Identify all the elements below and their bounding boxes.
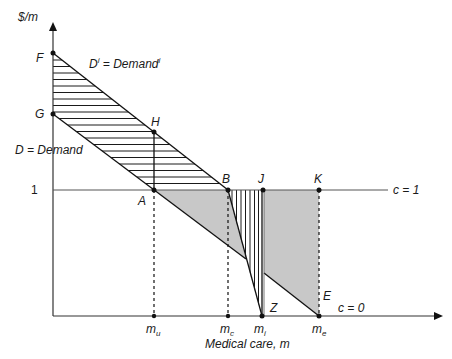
tick-mu: [152, 314, 156, 318]
point-e: [317, 314, 322, 319]
label-z: Z: [269, 301, 278, 315]
demand-curve: [53, 114, 246, 259]
tick-label-mc: mc: [220, 322, 234, 338]
tick-label-me: me: [312, 322, 327, 338]
shaded-region-jk: [264, 190, 319, 316]
label-c1: c = 1: [393, 183, 419, 197]
y-tick-1: 1: [31, 183, 38, 197]
x-axis-arrow-icon: [434, 312, 443, 320]
tick-mc: [226, 314, 230, 318]
point-z: [260, 314, 265, 319]
label-j: J: [257, 172, 265, 186]
label-k: K: [314, 172, 323, 186]
point-a: [152, 188, 157, 193]
label-b: B: [222, 172, 230, 186]
welfare-loss-diagram: $/m Medical care, m 1 F G H A B J K Z E …: [0, 0, 452, 359]
point-g: [51, 112, 56, 117]
label-f: F: [36, 51, 44, 65]
label-a: A: [137, 194, 146, 208]
x-axis-label: Medical care, m: [205, 337, 290, 351]
point-k: [317, 188, 322, 193]
tick-label-mu: mu: [146, 322, 161, 338]
label-h: H: [151, 115, 160, 129]
horizontal-hatching: [50, 60, 240, 184]
label-e: E: [323, 289, 332, 303]
point-j: [261, 188, 266, 193]
label-demand: D = Demand: [15, 143, 83, 157]
label-insured-demand: Di = Demandi: [89, 56, 161, 71]
label-c0: c = 0: [338, 301, 365, 315]
point-b: [226, 188, 231, 193]
point-f: [51, 51, 56, 56]
y-axis-label: $/m: [17, 10, 38, 24]
insured-demand-curve: [53, 53, 228, 190]
y-axis-arrow-icon: [49, 22, 57, 31]
tick-label-mi: mi: [254, 322, 266, 338]
label-g: G: [35, 107, 44, 121]
point-h: [152, 130, 157, 135]
